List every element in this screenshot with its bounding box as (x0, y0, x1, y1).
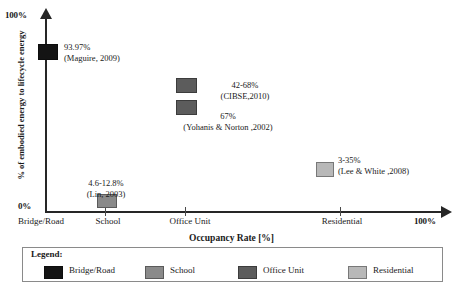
y-axis-min-label: 0% (18, 201, 31, 211)
x-tick-residential (340, 207, 341, 216)
annotation-source: (Maguire, 2009) (64, 53, 120, 64)
legend-swatch-icon (145, 266, 164, 279)
x-tick-office-unit (185, 207, 186, 216)
legend-label: Office Unit (263, 265, 304, 275)
legend-label: Residential (373, 265, 414, 275)
x-axis-arrow-icon (441, 206, 452, 218)
annotation-source: (CIBSE,2010) (221, 91, 270, 102)
chart-figure: 100% 0% % of embodied energy to lifecycl… (0, 0, 463, 287)
annotation-value: 4.6-12.8% (87, 178, 126, 189)
legend-swatch-icon (238, 266, 257, 279)
x-axis-title: Occupancy Rate [%] (0, 233, 463, 243)
legend-title: Legend: (31, 249, 63, 259)
annotation-school: 4.6-12.8% (Lin, 2003) (87, 178, 126, 199)
legend-swatch-icon (348, 266, 367, 279)
x-axis-max-label: 100% (414, 216, 436, 226)
annotation-source: (Yohanis & Norton ,2002) (183, 122, 272, 133)
y-axis-arrow-icon (40, 8, 52, 19)
data-marker-bridge-road[interactable] (38, 44, 58, 60)
annotation-value: 67% (183, 111, 272, 122)
x-label-bridge-road: Bridge/Road (18, 216, 64, 226)
legend-swatch-icon (44, 266, 63, 279)
annotation-bridge-road: 93.97% (Maguire, 2009) (64, 42, 120, 63)
x-label-office-unit: Office Unit (169, 216, 210, 226)
legend-label: Bridge/Road (69, 265, 115, 275)
legend-label: School (170, 265, 195, 275)
data-marker-residential[interactable] (316, 162, 334, 177)
annotation-office-unit-yohanis: 67% (Yohanis & Norton ,2002) (183, 111, 272, 132)
x-tick-school (105, 207, 106, 216)
x-label-residential: Residential (322, 216, 363, 226)
annotation-residential: 3-35% (Lee & White ,2008) (338, 155, 409, 176)
y-axis-max-label: 100% (5, 10, 27, 20)
data-marker-office-unit-cibse[interactable] (176, 78, 197, 93)
annotation-source: (Lin, 2003) (87, 189, 126, 200)
annotation-value: 93.97% (64, 42, 120, 53)
annotation-value: 3-35% (338, 155, 409, 166)
x-label-school: School (95, 216, 120, 226)
annotation-source: (Lee & White ,2008) (338, 166, 409, 177)
annotation-value: 42-68% (221, 80, 270, 91)
y-axis-title: % of embodied energy to lifecycle energy (16, 20, 26, 190)
annotation-office-unit-cibse: 42-68% (CIBSE,2010) (221, 80, 270, 101)
